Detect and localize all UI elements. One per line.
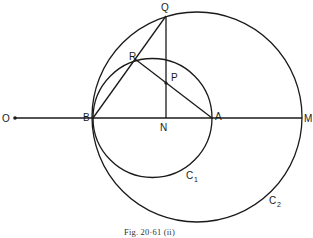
label-c1: C	[186, 170, 193, 181]
label-r: R	[129, 51, 136, 62]
label-c2-sub: 2	[277, 201, 281, 208]
label-n: N	[160, 122, 167, 133]
figure-caption: Fig. 20·61 (ii)	[124, 227, 175, 237]
label-c2: C	[269, 195, 276, 206]
geometry-figure: O B N A M Q R P C 1 C 2 Fig. 20·61 (ii)	[0, 0, 313, 238]
label-p: P	[171, 72, 178, 83]
label-a: A	[215, 111, 222, 122]
label-m: M	[304, 113, 312, 124]
point-p-dot	[164, 81, 167, 84]
label-q: Q	[161, 2, 169, 13]
line-ra	[135, 59, 212, 118]
point-o-dot	[13, 116, 17, 120]
label-b: B	[83, 112, 90, 123]
label-o: O	[2, 113, 10, 124]
label-c1-sub: 1	[194, 176, 198, 183]
circle-c2	[92, 12, 302, 222]
